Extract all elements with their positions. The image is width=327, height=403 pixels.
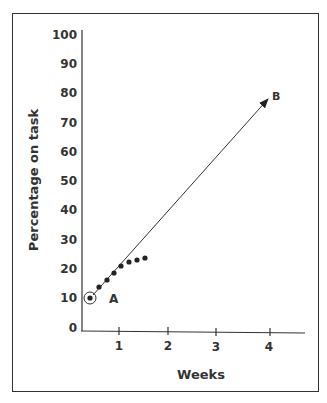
annotation-b: B: [272, 90, 280, 103]
data-point: [142, 255, 147, 260]
data-point: [104, 277, 109, 282]
y-tick-label: 30: [60, 233, 77, 247]
x-axis-title: Weeks: [177, 367, 225, 382]
x-tick-labels: 1 2 3 4: [115, 339, 273, 354]
y-tick-labels: 100 90 80 70 60 50 40 30 20 10 0: [52, 28, 77, 335]
x-tick-label: 3: [212, 340, 220, 354]
x-tick-label: 2: [164, 339, 172, 353]
y-tick-label: 10: [60, 291, 77, 305]
annotation-a: A: [109, 292, 119, 306]
y-tick-label: 0: [69, 321, 77, 335]
data-point: [111, 270, 116, 275]
x-axis: [81, 331, 305, 333]
data-point: [87, 295, 92, 300]
y-tick-label: 20: [60, 262, 77, 276]
y-tick-label: 70: [60, 116, 77, 130]
y-tick-label: 90: [60, 57, 77, 71]
y-tick-label: 60: [60, 145, 77, 159]
x-tick-label: 1: [115, 339, 123, 353]
y-tick-label: 40: [60, 203, 77, 217]
x-tick-label: 4: [265, 340, 273, 354]
chart: 100 90 80 70 60 50 40 30 20 10 0 1 2 3 4…: [0, 0, 327, 403]
data-point: [96, 284, 101, 289]
data-point: [126, 259, 131, 264]
y-tick-label: 50: [60, 174, 77, 188]
data-point: [118, 263, 123, 268]
y-tick-label: 80: [60, 86, 77, 100]
y-axis-title: Percentage on task: [26, 109, 41, 252]
y-tick-label: 100: [52, 28, 77, 42]
data-point: [134, 257, 139, 262]
